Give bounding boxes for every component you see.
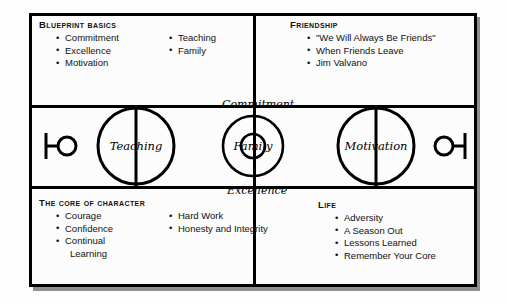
blueprint-diagram: Teaching Family Motivation Commitment Ex… [0,0,508,304]
list-item: "We Will Always Be Friends" [307,32,436,45]
panel-friendship-list: "We Will Always Be Friends" When Friends… [307,32,436,70]
panel-core-column-right: Hard Work Honesty and Integrity [169,210,268,260]
basketball-hoop-icon-left [46,133,76,159]
excellence-label: Excellence [227,184,287,197]
teaching-circle [98,108,174,184]
list-item-continuation: Learning [56,248,152,261]
list-item: Remember Your Core [335,250,436,263]
list-item: Courage [56,210,152,223]
list-item: A Season Out [335,225,436,238]
panel-blueprint-heading: Blueprint Basics [39,19,216,30]
panel-core-heading: The Core of Character [39,197,268,208]
list-item: Adversity [335,212,436,225]
list-item: Lessons Learned [335,237,436,250]
list-item: Honesty and Integrity [169,223,268,236]
panel-blueprint-basics: Blueprint Basics Commitment Excellence M… [39,19,216,70]
panel-core-column-left: Courage Confidence Continual Learning [56,210,152,260]
list-item: Commitment [56,32,152,45]
list-item: Jim Valvano [307,57,436,70]
list-item: Teaching [169,32,216,45]
list-item: Continual [56,235,152,248]
panel-blueprint-column-left: Commitment Excellence Motivation [56,32,152,70]
panel-life-list: Adversity A Season Out Lessons Learned R… [335,212,436,262]
panel-friendship-heading: Friendship [290,19,436,30]
panel-friendship: Friendship "We Will Always Be Friends" W… [290,19,436,70]
list-item: Motivation [56,57,152,70]
teaching-circle-label: Teaching [110,139,163,153]
panel-life-heading: Life [318,199,436,210]
list-item: When Friends Leave [307,45,436,58]
list-item: Family [169,45,216,58]
list-item: Confidence [56,223,152,236]
list-item: Hard Work [169,210,268,223]
panel-core-of-character: The Core of Character Courage Confidence… [39,197,268,260]
panel-blueprint-columns: Commitment Excellence Motivation Teachin… [39,32,216,70]
panel-life: Life Adversity A Season Out Lessons Lear… [318,199,436,262]
list-item: Excellence [56,45,152,58]
panel-blueprint-column-right: Teaching Family [169,32,216,70]
panel-core-columns: Courage Confidence Continual Learning Ha… [39,210,268,260]
commitment-label: Commitment [222,98,294,111]
motivation-circle [338,108,414,184]
basketball-hoop-icon-right [435,133,465,159]
motivation-circle-label: Motivation [344,139,408,153]
